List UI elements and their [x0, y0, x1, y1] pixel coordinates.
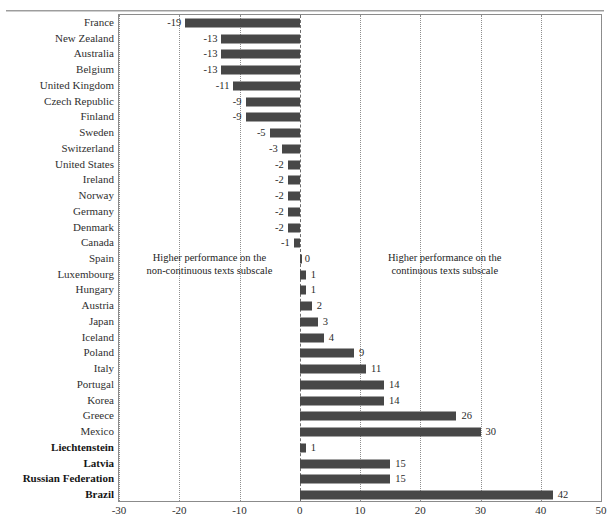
- bar-row: 9: [119, 346, 601, 362]
- bar-value-label: 30: [486, 427, 497, 437]
- bar-value-label: -5: [251, 128, 266, 138]
- category-label: Italy: [94, 363, 114, 374]
- bar: [300, 491, 553, 500]
- x-tick-40: 40: [535, 504, 546, 516]
- bar-value-label: -2: [269, 207, 284, 217]
- bar-row: 26: [119, 409, 601, 425]
- x-tick-0: 0: [297, 504, 303, 516]
- bar-value-label: 15: [395, 474, 406, 484]
- bar: [300, 302, 312, 311]
- x-tick-30: 30: [475, 504, 486, 516]
- bar-row: 15: [119, 472, 601, 488]
- bar-row: -1: [119, 235, 601, 251]
- category-label: Finland: [80, 111, 114, 122]
- bar-value-label: 15: [395, 459, 406, 469]
- bar-value-label: -9: [227, 97, 242, 107]
- bar-value-label: 3: [323, 317, 328, 327]
- bar: [300, 396, 384, 405]
- bar-value-label: -9: [227, 112, 242, 122]
- category-label: Korea: [87, 394, 114, 405]
- annotation-non-continuous: Higher performance on the non-continuous…: [127, 252, 292, 277]
- bar: [300, 365, 366, 374]
- bar-row: -3: [119, 141, 601, 157]
- bar: [288, 160, 300, 169]
- bar-value-label: 9: [359, 348, 364, 358]
- bar-value-label: 26: [461, 411, 472, 421]
- bar: [300, 428, 481, 437]
- category-label: Austria: [82, 300, 114, 311]
- category-label: Canada: [81, 237, 114, 248]
- bar-value-label: 14: [389, 396, 400, 406]
- bar: [185, 18, 299, 27]
- x-tick-10: 10: [355, 504, 366, 516]
- category-label: Ireland: [83, 174, 114, 185]
- bar-row: -11: [119, 78, 601, 94]
- annotation-continuous: Higher performance on the continuous tex…: [360, 252, 530, 277]
- bar-row: -19: [119, 15, 601, 31]
- bar: [294, 239, 300, 248]
- bar-value-label: -19: [166, 18, 181, 28]
- annotation-non-continuous-line1: Higher performance on the: [127, 252, 292, 265]
- bar: [300, 349, 354, 358]
- bar-value-label: 1: [311, 285, 316, 295]
- category-label: Belgium: [76, 64, 114, 75]
- bar-value-label: -2: [269, 223, 284, 233]
- bar-value-label: -2: [269, 191, 284, 201]
- bar-row: 14: [119, 377, 601, 393]
- bar: [282, 144, 300, 153]
- bar-row: 1: [119, 440, 601, 456]
- x-tick--30: -30: [112, 504, 127, 516]
- bar-value-label: 14: [389, 380, 400, 390]
- category-label: Portugal: [77, 378, 114, 389]
- category-label: Latvia: [83, 457, 114, 468]
- bar-value-label: 0: [305, 254, 310, 264]
- category-label: Mexico: [80, 426, 114, 437]
- bar-row: 4: [119, 330, 601, 346]
- bar-row: -2: [119, 188, 601, 204]
- bar-value-label: -1: [275, 238, 290, 248]
- annotation-non-continuous-line2: non-continuous texts subscale: [127, 265, 292, 278]
- bar-value-label: -13: [202, 34, 217, 44]
- bar: [233, 81, 299, 90]
- bar: [300, 270, 306, 279]
- category-label: France: [84, 16, 114, 27]
- bar: [300, 475, 390, 484]
- bar-row: -2: [119, 157, 601, 173]
- category-label: Luxembourg: [57, 268, 114, 279]
- bar-value-label: 1: [311, 270, 316, 280]
- bar-row: -9: [119, 94, 601, 110]
- title-rule-shadow: [6, 11, 604, 12]
- category-label: Spain: [89, 253, 114, 264]
- bar-row: -2: [119, 172, 601, 188]
- bar-value-label: 4: [329, 333, 334, 343]
- bar: [300, 254, 302, 263]
- category-label: Greece: [83, 410, 114, 421]
- bar-row: 11: [119, 361, 601, 377]
- category-label: Japan: [89, 315, 114, 326]
- bar: [246, 97, 300, 106]
- bar-row: 3: [119, 314, 601, 330]
- bar: [300, 380, 384, 389]
- bar: [288, 207, 300, 216]
- category-label: United States: [55, 158, 114, 169]
- bar-row: -2: [119, 220, 601, 236]
- bar-row: 42: [119, 487, 601, 503]
- bar: [300, 412, 457, 421]
- category-label: Germany: [73, 205, 114, 216]
- category-label: Norway: [79, 190, 114, 201]
- bar: [221, 50, 299, 59]
- bar: [300, 459, 390, 468]
- bar-row: -13: [119, 46, 601, 62]
- category-label: Russian Federation: [23, 473, 114, 484]
- category-label: United Kingdom: [40, 79, 114, 90]
- bar-value-label: -2: [269, 160, 284, 170]
- category-label: Hungary: [76, 284, 115, 295]
- bar-value-label: -11: [214, 81, 229, 91]
- bar-value-label: -13: [202, 65, 217, 75]
- category-label: Sweden: [79, 127, 114, 138]
- category-label: Australia: [74, 48, 114, 59]
- bar: [221, 66, 299, 75]
- bar-row: -13: [119, 31, 601, 47]
- bar: [270, 129, 300, 138]
- bar-value-label: 11: [371, 364, 381, 374]
